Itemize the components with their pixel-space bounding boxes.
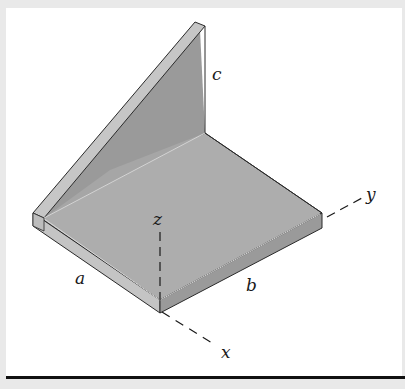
- bottom-rule: [6, 376, 405, 379]
- label-a: a: [75, 268, 85, 288]
- label-y: y: [365, 184, 376, 204]
- label-x: x: [221, 342, 231, 362]
- label-b: b: [246, 275, 257, 295]
- label-c: c: [212, 64, 222, 84]
- label-z: z: [152, 209, 163, 229]
- bracket-diagram: c z a b y x: [0, 0, 405, 389]
